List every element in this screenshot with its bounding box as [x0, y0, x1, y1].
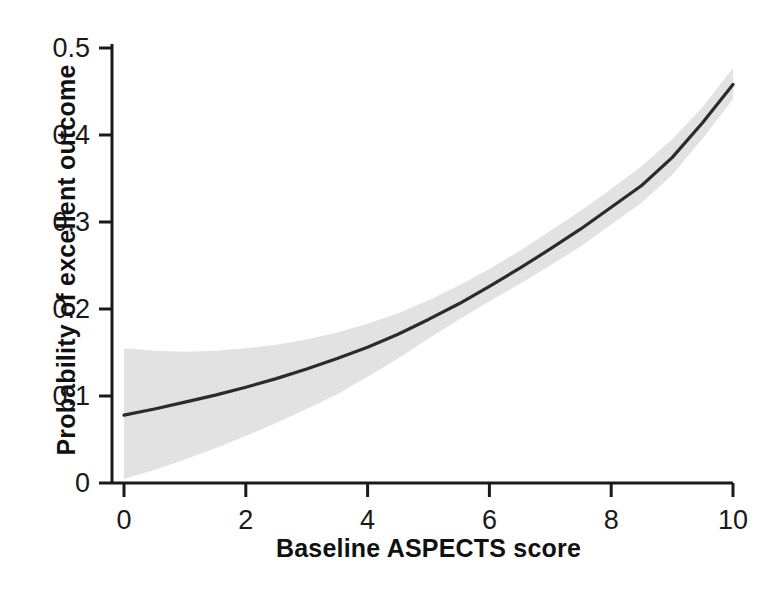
- x-axis-tick-label: 2: [238, 507, 253, 534]
- figure-panel: 00.10.20.30.40.5 0246810 Probability of …: [0, 0, 771, 590]
- x-axis-tick-label: 6: [482, 507, 497, 534]
- chart-plot-area: [0, 0, 771, 590]
- x-axis-tick-label: 8: [604, 507, 619, 534]
- x-axis-tick-label: 0: [116, 507, 131, 534]
- y-axis-title: Probability of excellent outcome: [44, 20, 88, 500]
- x-axis-tick-label: 4: [360, 507, 375, 534]
- y-axis-ticks: [99, 48, 112, 483]
- confidence-band: [124, 68, 733, 479]
- x-axis-tick-label: 10: [718, 507, 748, 534]
- x-axis-title: Baseline ASPECTS score: [124, 534, 733, 563]
- x-axis-ticks: [124, 483, 733, 497]
